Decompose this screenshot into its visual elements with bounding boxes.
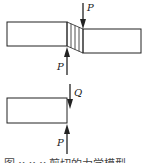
bottom-panel: Q P <box>7 84 82 154</box>
right-block <box>83 29 141 53</box>
left-block <box>7 22 67 46</box>
figure-caption: 图 x-x-x 剪切的力学模型 <box>4 157 126 163</box>
shear-diagram: P P Q P 图 x-x-x 剪切的力学模型 <box>0 0 146 163</box>
top-panel: P P <box>7 2 141 75</box>
shear-force-arrow-down-icon <box>67 84 73 109</box>
force-arrow-up-icon-2 <box>64 124 70 154</box>
sheared-zone <box>67 22 83 53</box>
force-label-top-p: P <box>86 2 94 13</box>
force-arrow-up-icon <box>64 47 70 75</box>
free-body-block <box>7 98 67 123</box>
force-label-q: Q <box>74 87 82 98</box>
force-label-bottom-p: P <box>56 61 64 72</box>
force-arrow-down-icon <box>80 3 86 29</box>
force-label-p-2: P <box>56 137 64 148</box>
